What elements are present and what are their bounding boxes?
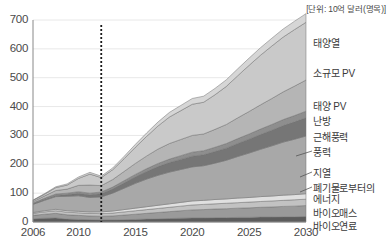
series-label: 폐기물로부터의	[313, 183, 375, 194]
y-tick-label: 400	[0, 100, 28, 112]
x-tick-label: 2010	[61, 226, 97, 238]
series-label: 에너지	[313, 194, 339, 205]
stacked-area-chart: [단위: 10억 달러(명목)] 0100200300400500600700 …	[0, 0, 390, 247]
series-label: 소규모 PV	[313, 68, 355, 79]
series-label: 태양 PV	[313, 101, 346, 112]
series-label: 태양열	[313, 38, 339, 49]
series-label: 풍력	[313, 147, 331, 158]
series-label: 바이오매스	[313, 208, 357, 219]
y-tick-label: 100	[0, 186, 28, 198]
x-tick-label: 2015	[117, 226, 153, 238]
y-tick-label: 500	[0, 71, 28, 83]
series-label: 난방	[313, 116, 331, 127]
x-tick-label: 2006	[15, 226, 51, 238]
y-tick-label: 700	[0, 13, 28, 25]
series-label: 바이오연료	[313, 221, 357, 232]
series-label: 지열	[313, 168, 331, 179]
y-tick-label: 300	[0, 128, 28, 140]
y-tick-label: 600	[0, 42, 28, 54]
x-tick-label: 2025	[231, 226, 267, 238]
x-tick-label: 2020	[174, 226, 210, 238]
y-tick-label: 200	[0, 157, 28, 169]
series-label: 근해풍력	[313, 132, 348, 143]
